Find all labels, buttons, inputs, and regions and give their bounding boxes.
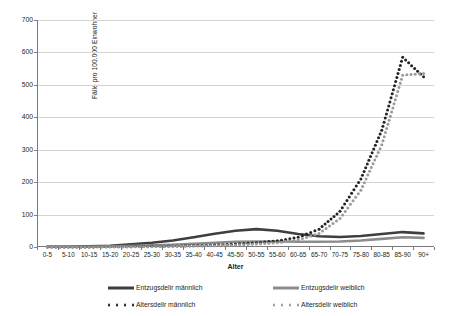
x-tick-mark — [37, 247, 38, 250]
x-tick-mark — [225, 247, 226, 250]
plot-area: Fälle pro 100.000 Einwohner 010020030040… — [37, 20, 434, 247]
legend-key-solid-icon — [273, 284, 299, 292]
x-tick-label: 65-70 — [311, 252, 327, 258]
x-tick-mark — [434, 247, 435, 250]
legend-item-altersdelir-maennlich: Altersdelir männlich — [108, 301, 273, 309]
x-tick-mark — [162, 247, 163, 250]
y-tick-label: 400 — [7, 114, 33, 121]
data-series-layer — [37, 20, 434, 247]
y-tick-label: 700 — [7, 17, 33, 24]
x-tick-label: 55-60 — [269, 252, 285, 258]
x-tick-label: 0-5 — [43, 252, 52, 258]
y-tick-label: 200 — [7, 179, 33, 186]
x-tick-mark — [267, 247, 268, 250]
x-tick-mark — [204, 247, 205, 250]
x-tick-label: 35-40 — [186, 252, 202, 258]
x-tick-mark — [288, 247, 289, 250]
y-tick-label: 500 — [7, 81, 33, 88]
x-tick-mark — [141, 247, 142, 250]
y-tick-label: 600 — [7, 49, 33, 56]
y-tick-label: 300 — [7, 146, 33, 153]
x-tick-mark — [79, 247, 80, 250]
chart-figure: Fälle pro 100.000 Einwohner 010020030040… — [0, 0, 454, 316]
x-tick-label: 45-50 — [227, 252, 243, 258]
x-tick-label: 5-10 — [62, 252, 75, 258]
x-tick-label: 70-75 — [332, 252, 348, 258]
legend-item-altersdelir-weiblich: Altersdelir weiblich — [273, 301, 438, 309]
x-tick-mark — [246, 247, 247, 250]
x-tick-label: 90+ — [418, 252, 429, 258]
x-tick-mark — [121, 247, 122, 250]
x-tick-mark — [330, 247, 331, 250]
x-tick-label: 10-15 — [81, 252, 97, 258]
x-tick-mark — [392, 247, 393, 250]
series-dotted — [46, 56, 425, 249]
x-tick-label: 40-45 — [206, 252, 222, 258]
x-tick-label: 15-20 — [102, 252, 118, 258]
x-tick-mark — [371, 247, 372, 250]
x-tick-label: 60-65 — [290, 252, 306, 258]
x-tick-label: 30-35 — [165, 252, 181, 258]
x-tick-label: 20-25 — [123, 252, 139, 258]
x-tick-mark — [413, 247, 414, 250]
x-tick-label: 80-85 — [374, 252, 390, 258]
legend-label: Entzugsdelir weiblich — [301, 285, 364, 292]
legend-item-entzugsdelir-maennlich: Entzugsdelir männlich — [108, 284, 273, 292]
legend-label: Altersdelir weiblich — [301, 302, 357, 309]
x-tick-label: 75-80 — [353, 252, 369, 258]
legend-item-entzugsdelir-weiblich: Entzugsdelir weiblich — [273, 284, 438, 292]
legend-label: Entzugsdelir männlich — [136, 285, 203, 292]
legend-key-solid-icon — [108, 284, 134, 292]
x-tick-mark — [183, 247, 184, 250]
y-tick-label: 0 — [7, 244, 33, 251]
legend-key-dotted-icon — [108, 301, 134, 309]
chart-legend: Entzugsdelir männlich Entzugsdelir weibl… — [108, 284, 438, 309]
x-tick-mark — [309, 247, 310, 250]
x-axis-title: Alter — [37, 263, 434, 270]
legend-key-dotted-icon — [273, 301, 299, 309]
x-tick-label: 85-90 — [394, 252, 410, 258]
y-tick-label: 100 — [7, 211, 33, 218]
x-tick-mark — [350, 247, 351, 250]
x-tick-mark — [100, 247, 101, 250]
legend-label: Altersdelir männlich — [136, 302, 195, 309]
x-tick-label: 25-30 — [144, 252, 160, 258]
x-tick-label: 50-55 — [248, 252, 264, 258]
x-tick-mark — [58, 247, 59, 250]
